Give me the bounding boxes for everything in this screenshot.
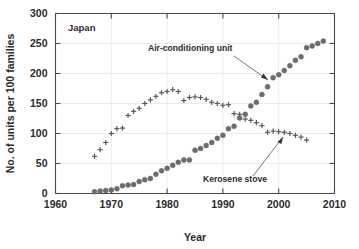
data-point-kerosene xyxy=(248,118,253,123)
data-point-kerosene xyxy=(176,89,181,94)
data-point-air-conditioning xyxy=(259,92,264,97)
y-tick-label: 300 xyxy=(30,7,48,19)
data-point-kerosene xyxy=(131,109,136,114)
data-point-kerosene xyxy=(215,101,220,106)
data-point-air-conditioning xyxy=(315,41,320,46)
data-point-kerosene xyxy=(204,97,209,102)
chart-figure: 0501001502002503001960197019801990200020… xyxy=(0,0,359,249)
data-point-kerosene xyxy=(165,89,170,94)
data-point-air-conditioning xyxy=(287,63,292,68)
data-point-air-conditioning xyxy=(153,172,158,177)
data-point-kerosene xyxy=(125,113,130,118)
data-point-air-conditioning xyxy=(243,112,248,117)
panel-label-japan: Japan xyxy=(68,22,96,33)
data-point-air-conditioning xyxy=(137,179,142,184)
data-point-air-conditioning xyxy=(170,163,175,168)
data-point-air-conditioning xyxy=(276,72,281,77)
data-point-kerosene xyxy=(92,154,97,159)
data-point-air-conditioning xyxy=(310,43,315,48)
data-point-air-conditioning xyxy=(187,157,192,162)
data-point-air-conditioning xyxy=(148,176,153,181)
data-point-kerosene xyxy=(181,98,186,103)
series-air-conditioning-unit xyxy=(92,39,326,195)
data-point-air-conditioning xyxy=(232,124,237,129)
annotation-kerosene-stove: Kerosene stove xyxy=(203,174,267,184)
y-axis-title: No. of units per 100 families xyxy=(4,34,16,174)
data-point-air-conditioning xyxy=(165,166,170,171)
y-tick-label: 150 xyxy=(30,97,48,109)
data-point-kerosene xyxy=(114,126,119,131)
data-point-air-conditioning xyxy=(131,182,136,187)
data-point-air-conditioning xyxy=(226,126,231,131)
data-point-air-conditioning xyxy=(293,58,298,63)
data-point-kerosene xyxy=(304,138,309,143)
gridlines xyxy=(56,14,335,194)
x-tick-label: 1980 xyxy=(155,198,179,210)
data-point-air-conditioning xyxy=(159,168,164,173)
data-point-air-conditioning xyxy=(215,136,220,141)
y-tick-label: 100 xyxy=(30,127,48,139)
data-point-kerosene xyxy=(226,102,231,107)
data-point-air-conditioning xyxy=(282,68,287,73)
data-point-kerosene xyxy=(98,147,103,152)
x-tick-label: 2000 xyxy=(267,198,291,210)
data-point-air-conditioning xyxy=(114,186,119,191)
data-point-kerosene xyxy=(282,130,287,135)
y-tick-label: 50 xyxy=(36,157,48,169)
data-point-kerosene xyxy=(142,101,147,106)
x-tick-label: 1960 xyxy=(44,198,68,210)
data-point-air-conditioning xyxy=(142,177,147,182)
data-point-air-conditioning xyxy=(193,148,198,153)
data-point-air-conditioning xyxy=(103,188,108,193)
data-point-air-conditioning xyxy=(248,103,253,108)
data-point-air-conditioning xyxy=(220,133,225,138)
data-point-kerosene xyxy=(298,135,303,140)
data-point-kerosene xyxy=(287,131,292,136)
data-point-air-conditioning xyxy=(321,39,326,44)
data-point-kerosene xyxy=(103,140,108,145)
data-point-air-conditioning xyxy=(198,146,203,151)
data-point-air-conditioning xyxy=(92,189,97,194)
y-tick-label: 200 xyxy=(30,67,48,79)
data-point-air-conditioning xyxy=(126,183,131,188)
data-point-air-conditioning xyxy=(265,84,270,89)
data-point-air-conditioning xyxy=(209,140,214,145)
data-point-kerosene xyxy=(109,131,114,136)
data-point-air-conditioning xyxy=(304,45,309,50)
leader-arrow-air-conditioning xyxy=(261,74,268,81)
data-point-kerosene xyxy=(153,94,158,99)
x-tick-label: 1990 xyxy=(211,198,235,210)
data-point-air-conditioning xyxy=(176,160,181,165)
data-point-kerosene xyxy=(170,87,175,92)
x-axis-title: Year xyxy=(184,231,206,243)
x-tick-label: 1970 xyxy=(100,198,124,210)
data-point-air-conditioning xyxy=(98,189,103,194)
data-point-air-conditioning xyxy=(120,183,125,188)
data-point-kerosene xyxy=(259,123,264,128)
data-point-kerosene xyxy=(265,130,270,135)
data-point-kerosene xyxy=(137,106,142,111)
data-point-kerosene xyxy=(198,95,203,100)
data-point-air-conditioning xyxy=(299,54,304,59)
data-point-kerosene xyxy=(254,120,259,125)
data-point-kerosene xyxy=(209,100,214,105)
data-point-kerosene xyxy=(120,126,125,131)
data-point-kerosene xyxy=(159,90,164,95)
data-point-kerosene xyxy=(148,97,153,102)
data-point-air-conditioning xyxy=(109,187,114,192)
data-point-kerosene xyxy=(231,111,236,116)
data-point-air-conditioning xyxy=(204,143,209,148)
data-point-air-conditioning xyxy=(237,115,242,120)
data-point-kerosene xyxy=(192,94,197,99)
x-tick-label: 2010 xyxy=(323,198,347,210)
data-point-kerosene xyxy=(187,95,192,100)
data-point-kerosene xyxy=(271,129,276,134)
y-tick-label: 250 xyxy=(30,37,48,49)
data-point-air-conditioning xyxy=(271,75,276,80)
data-point-air-conditioning xyxy=(254,100,259,105)
annotation-air-conditioning-unit: Air-conditioning unit xyxy=(148,43,233,53)
data-point-kerosene xyxy=(243,117,248,122)
chart-canvas: 0501001502002503001960197019801990200020… xyxy=(0,0,359,249)
data-point-air-conditioning xyxy=(181,157,186,162)
